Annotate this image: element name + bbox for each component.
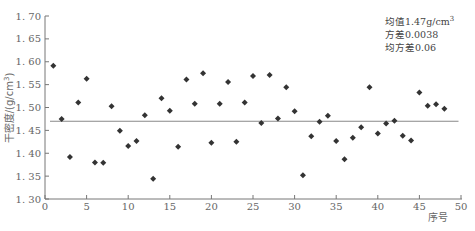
y-tick-label: 1. 40 (16, 148, 41, 159)
data-point-marker (342, 156, 348, 162)
y-tick-label: 1. 30 (16, 194, 41, 205)
data-point-marker (117, 128, 123, 134)
data-point-marker (317, 119, 323, 125)
variance-annotation: 方差0.0038 (385, 28, 454, 41)
data-point-marker (416, 89, 422, 95)
data-point-marker (225, 79, 231, 85)
data-point-marker (300, 172, 306, 178)
data-point-marker (134, 138, 140, 144)
data-point-marker (425, 103, 431, 109)
y-tick-label: 1. 55 (16, 79, 41, 90)
data-point-marker (175, 144, 181, 150)
data-point-marker (350, 135, 356, 141)
data-point-marker (67, 154, 73, 160)
y-tick-label: 1. 35 (16, 171, 41, 182)
y-tick-label: 1. 45 (16, 125, 41, 136)
data-point-marker (242, 99, 248, 105)
data-point-marker (208, 140, 214, 146)
data-point-marker (358, 124, 364, 130)
std-annotation: 均方差0.06 (385, 41, 454, 54)
data-point-marker (142, 112, 148, 118)
data-point-marker (183, 77, 189, 83)
y-tick-label: 1. 65 (16, 33, 41, 44)
x-tick-label: 45 (413, 201, 426, 212)
data-point-marker (408, 137, 414, 143)
data-point-marker (308, 133, 314, 139)
data-point-marker (200, 70, 206, 76)
mean-annotation: 均值1.47g/cm3 (385, 13, 454, 28)
data-point-marker (167, 108, 173, 114)
x-tick-label: 20 (205, 201, 218, 212)
data-point-marker (400, 133, 406, 139)
data-point-marker (375, 131, 381, 137)
y-tick-label: 1. 60 (16, 56, 41, 67)
data-point-marker (109, 103, 115, 109)
x-tick-label: 10 (122, 201, 135, 212)
data-point-marker (192, 101, 198, 107)
y-tick-label: 1. 70 (16, 11, 41, 22)
data-point-marker (267, 72, 273, 78)
data-point-marker (100, 160, 106, 166)
data-point-marker (391, 118, 397, 124)
data-point-marker (233, 139, 239, 145)
x-tick-label: 25 (247, 201, 260, 212)
y-axis-title: 干密度/(g/cm3) (3, 73, 15, 144)
data-point-marker (150, 176, 156, 182)
x-tick-label: 35 (330, 201, 343, 212)
data-point-marker (275, 115, 281, 121)
data-point-marker (325, 113, 331, 119)
x-axis-title: 序号 (428, 211, 448, 223)
data-point-marker (217, 101, 223, 107)
x-tick-label: 15 (163, 201, 176, 212)
data-point-marker (250, 73, 256, 79)
data-point-marker (441, 106, 447, 112)
data-point-marker (433, 101, 439, 107)
y-tick-label: 1. 50 (16, 102, 41, 113)
x-tick-label: 40 (371, 201, 384, 212)
data-point-marker (366, 84, 372, 90)
data-point-marker (283, 84, 289, 90)
stats-annotation: 均值1.47g/cm3 方差0.0038 均方差0.06 (385, 13, 454, 54)
data-point-marker (50, 63, 56, 69)
x-tick-label: 5 (83, 201, 89, 212)
x-tick-label: 30 (288, 201, 301, 212)
data-points (50, 63, 447, 182)
data-point-marker (84, 76, 90, 82)
data-point-marker (92, 159, 98, 165)
data-point-marker (75, 99, 81, 105)
x-tick-label: 50 (455, 201, 468, 212)
data-point-marker (292, 108, 298, 114)
x-tick-label: 0 (42, 201, 48, 212)
data-point-marker (333, 138, 339, 144)
data-point-marker (125, 143, 131, 149)
data-point-marker (158, 95, 164, 101)
